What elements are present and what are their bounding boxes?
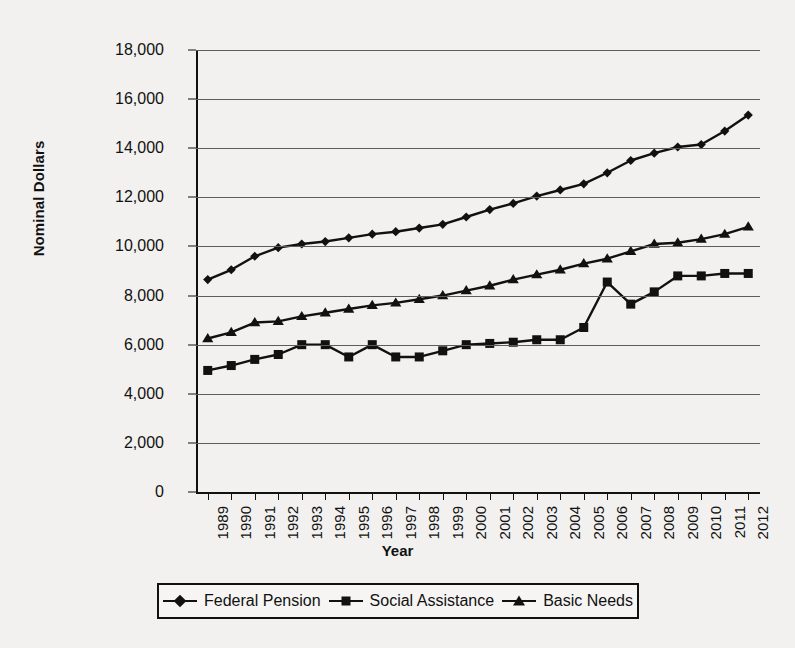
data-point-marker (626, 300, 635, 309)
x-tick-label: 2011 (732, 506, 747, 566)
y-tick-mark (188, 197, 196, 198)
data-point-marker (603, 278, 612, 287)
x-tick-mark (231, 492, 232, 500)
x-tick-mark (396, 492, 397, 500)
x-tick-mark (255, 492, 256, 500)
line-chart-figure: Nominal Dollars 02,0004,0006,0008,00010,… (0, 0, 795, 648)
data-point-marker (579, 179, 588, 188)
data-point-marker (532, 192, 541, 201)
x-tick-mark (678, 492, 679, 500)
x-tick-mark (631, 492, 632, 500)
x-tick-label: 1998 (426, 506, 441, 566)
legend-label: Social Assistance (370, 592, 495, 610)
x-tick-label: 2003 (544, 506, 559, 566)
x-tick-label: 2004 (567, 506, 582, 566)
x-tick-label: 1989 (215, 506, 230, 566)
y-tick-label: 0 (72, 484, 164, 500)
data-point-marker (673, 142, 682, 151)
x-tick-mark (654, 492, 655, 500)
x-tick-label: 2009 (685, 506, 700, 566)
x-tick-mark (443, 492, 444, 500)
data-point-marker (697, 271, 706, 280)
data-point-marker (485, 205, 494, 214)
data-point-marker (203, 366, 212, 375)
y-tick-label: 6,000 (72, 337, 164, 353)
x-tick-label: 1993 (309, 506, 324, 566)
x-axis-line (196, 492, 760, 494)
x-tick-label: 2002 (520, 506, 535, 566)
y-tick-label: 18,000 (72, 42, 164, 58)
data-point-marker (415, 223, 424, 232)
plot-area (196, 50, 760, 492)
x-tick-mark (537, 492, 538, 500)
x-tick-label: 1999 (450, 506, 465, 566)
chart-legend: Federal PensionSocial AssistanceBasic Ne… (157, 583, 639, 619)
x-tick-mark (607, 492, 608, 500)
x-tick-label: 1997 (403, 506, 418, 566)
x-tick-label: 1992 (285, 506, 300, 566)
gridline (196, 345, 760, 346)
x-tick-label: 2000 (473, 506, 488, 566)
data-point-marker (368, 230, 377, 239)
y-tick-label: 10,000 (72, 238, 164, 254)
diamond-marker (163, 594, 197, 608)
x-tick-mark (725, 492, 726, 500)
legend-label: Basic Needs (543, 592, 633, 610)
data-point-marker (556, 335, 565, 344)
x-tick-mark (584, 492, 585, 500)
x-tick-mark (560, 492, 561, 500)
data-point-marker (603, 168, 612, 177)
x-tick-label: 2005 (591, 506, 606, 566)
data-point-marker (509, 199, 518, 208)
gridline (196, 443, 760, 444)
x-tick-mark (349, 492, 350, 500)
data-point-marker (462, 212, 471, 221)
x-tick-mark (466, 492, 467, 500)
x-tick-label: 2007 (638, 506, 653, 566)
x-tick-mark (701, 492, 702, 500)
y-tick-mark (188, 50, 196, 51)
y-tick-mark (188, 492, 196, 493)
x-tick-mark (419, 492, 420, 500)
gridline (196, 148, 760, 149)
x-tick-label: 2010 (708, 506, 723, 566)
data-point-marker (744, 269, 753, 278)
y-tick-mark (188, 295, 196, 296)
data-point-marker (250, 355, 259, 364)
y-tick-label: 8,000 (72, 288, 164, 304)
x-tick-mark (325, 492, 326, 500)
gridline (196, 50, 760, 51)
y-tick-label: 16,000 (72, 91, 164, 107)
x-tick-label: 1991 (262, 506, 277, 566)
x-tick-mark (302, 492, 303, 500)
data-point-marker (391, 227, 400, 236)
x-tick-label: 2008 (661, 506, 676, 566)
x-tick-mark (748, 492, 749, 500)
y-tick-label: 14,000 (72, 140, 164, 156)
data-point-marker (438, 346, 447, 355)
y-tick-mark (188, 246, 196, 247)
x-tick-mark (208, 492, 209, 500)
y-tick-mark (188, 442, 196, 443)
y-tick-label: 12,000 (72, 189, 164, 205)
data-point-marker (415, 352, 424, 361)
y-tick-mark (188, 344, 196, 345)
x-tick-label: 2012 (755, 506, 770, 566)
gridline (196, 99, 760, 100)
legend-entry: Social Assistance (329, 592, 495, 610)
triangle-marker (502, 594, 536, 608)
data-point-marker (274, 243, 283, 252)
legend-entry: Federal Pension (163, 592, 321, 610)
data-point-marker (532, 335, 541, 344)
data-point-marker (743, 221, 754, 230)
gridline (196, 197, 760, 198)
data-point-marker (556, 185, 565, 194)
series-layer (196, 50, 760, 492)
x-tick-label: 1994 (332, 506, 347, 566)
x-tick-label: 1990 (238, 506, 253, 566)
x-tick-mark (278, 492, 279, 500)
x-tick-label: 2001 (497, 506, 512, 566)
y-tick-label: 2,000 (72, 435, 164, 451)
data-point-marker (203, 275, 212, 284)
data-series (203, 269, 753, 375)
